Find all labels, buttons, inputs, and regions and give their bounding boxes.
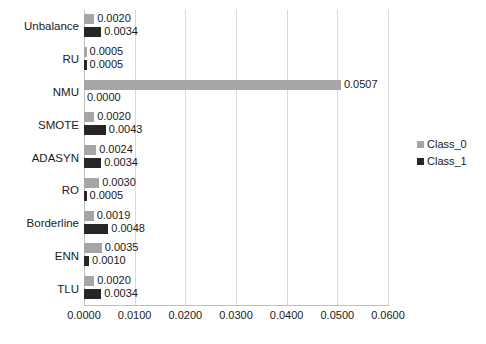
bar-value-label: 0.0010 xyxy=(92,255,126,266)
bar-group: 0.00200.0043 xyxy=(84,108,388,141)
bar-class_0 xyxy=(84,178,99,188)
legend-label: Class_1 xyxy=(427,155,467,167)
y-axis-label-ro: RO xyxy=(1,184,79,196)
legend-label: Class_0 xyxy=(427,138,467,150)
y-axis-label-adasyn: ADASYN xyxy=(1,152,79,164)
bar-class_1 xyxy=(84,27,101,37)
bar-class_1 xyxy=(84,256,89,266)
bar-group: 0.00240.0034 xyxy=(84,141,388,174)
bar-group: 0.00050.0005 xyxy=(84,43,388,76)
bar-group: 0.00350.0010 xyxy=(84,239,388,272)
gridline-x-6 xyxy=(388,10,389,305)
x-tick-label-1: 0.0100 xyxy=(118,309,152,322)
y-axis-label-enn: ENN xyxy=(1,250,79,262)
bar-value-label: 0.0507 xyxy=(344,79,378,90)
plot-area: 0.00200.00340.00050.00050.05070.00000.00… xyxy=(84,10,388,305)
bar-group: 0.00300.0005 xyxy=(84,174,388,207)
bar-value-label: 0.0020 xyxy=(97,111,131,122)
legend-swatch-icon xyxy=(417,158,424,165)
y-axis-label-smote: SMOTE xyxy=(1,119,79,131)
y-axis-label-tlu: TLU xyxy=(1,283,79,295)
bar-class_0 xyxy=(84,276,94,286)
bar-value-label: 0.0020 xyxy=(97,275,131,286)
bar-value-label: 0.0030 xyxy=(102,177,136,188)
bar-class_0 xyxy=(84,47,87,57)
bar-group: 0.00200.0034 xyxy=(84,272,388,305)
legend-swatch-icon xyxy=(417,141,424,148)
legend-item-class_0[interactable]: Class_0 xyxy=(417,137,483,151)
bar-value-label: 0.0005 xyxy=(90,46,124,57)
bar-value-label: 0.0034 xyxy=(104,26,138,37)
x-axis-line xyxy=(84,305,389,306)
bar-value-label: 0.0005 xyxy=(90,190,124,201)
x-axis-tick-labels: 0.00000.01000.02000.03000.04000.05000.06… xyxy=(84,309,388,329)
x-tick-label-4: 0.0400 xyxy=(270,309,304,322)
x-tick-label-0: 0.0000 xyxy=(67,309,101,322)
bar-value-label: 0.0034 xyxy=(104,288,138,299)
bar-value-label: 0.0048 xyxy=(111,223,145,234)
legend-item-class_1[interactable]: Class_1 xyxy=(417,154,483,168)
bar-value-label: 0.0019 xyxy=(97,210,131,221)
bar-value-label: 0.0005 xyxy=(90,59,124,70)
bar-class_1 xyxy=(84,289,101,299)
bar-class_0 xyxy=(84,211,94,221)
bar-value-label: 0.0024 xyxy=(99,144,133,155)
bar-class_0 xyxy=(84,14,94,24)
bar-class_1 xyxy=(84,158,101,168)
y-axis-label-nmu: NMU xyxy=(1,86,79,98)
bar-value-label: 0.0034 xyxy=(104,157,138,168)
bar-class_1 xyxy=(84,60,87,70)
bar-group: 0.05070.0000 xyxy=(84,76,388,109)
x-tick-label-3: 0.0300 xyxy=(219,309,253,322)
bar-class_0 xyxy=(84,145,96,155)
bar-class_0 xyxy=(84,80,341,90)
bar-class_1 xyxy=(84,224,108,234)
y-axis-label-borderline: Borderline xyxy=(1,217,79,229)
bar-value-label: 0.0043 xyxy=(109,124,143,135)
bar-class_1 xyxy=(84,125,106,135)
bar-class_1 xyxy=(84,191,87,201)
bar-class_0 xyxy=(84,112,94,122)
bar-class_0 xyxy=(84,243,102,253)
y-axis-label-ru: RU xyxy=(1,53,79,65)
x-tick-label-6: 0.0600 xyxy=(371,309,405,322)
x-tick-label-5: 0.0500 xyxy=(321,309,355,322)
bar-value-label: 0.0020 xyxy=(97,13,131,24)
bar-value-label: 0.0000 xyxy=(87,92,121,103)
chart-legend: Class_0Class_1 xyxy=(417,137,483,171)
bar-chart: 0.00200.00340.00050.00050.05070.00000.00… xyxy=(0,0,486,344)
y-axis-category-labels: UnbalanceRUNMUSMOTEADASYNROBorderlineENN… xyxy=(0,10,79,305)
bar-value-label: 0.0035 xyxy=(105,242,139,253)
bar-group: 0.00200.0034 xyxy=(84,10,388,43)
y-axis-label-unbalance: Unbalance xyxy=(1,20,79,32)
bar-group: 0.00190.0048 xyxy=(84,207,388,240)
x-tick-label-2: 0.0200 xyxy=(169,309,203,322)
